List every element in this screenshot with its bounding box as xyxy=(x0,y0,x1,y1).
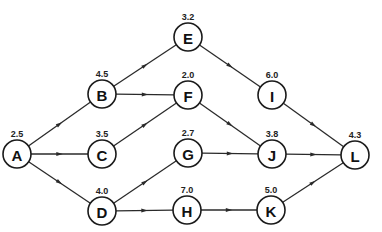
node-c: C3.5 xyxy=(88,129,116,168)
node-i: I6.0 xyxy=(258,70,286,109)
edge-a-c xyxy=(31,152,88,156)
arrow-icon xyxy=(141,209,147,213)
edge-g-j xyxy=(202,152,258,156)
node-j: J3.8 xyxy=(258,129,286,168)
arrow-icon xyxy=(227,152,233,156)
arrow-icon xyxy=(310,153,316,157)
node-f: F2.0 xyxy=(174,70,202,109)
node-label: I xyxy=(270,88,274,105)
edge-f-j xyxy=(199,103,260,146)
node-label: D xyxy=(97,204,108,221)
node-value: 3.2 xyxy=(182,12,195,22)
edge-k-l xyxy=(283,163,344,203)
node-k: K5.0 xyxy=(257,185,285,224)
nodes-layer: A2.5B4.5C3.5D4.0E3.2F2.0G2.7H7.0I6.0J3.8… xyxy=(3,12,369,225)
edge-c-f xyxy=(114,103,177,146)
node-value: 3.8 xyxy=(266,129,279,139)
node-value: 5.0 xyxy=(265,185,278,195)
node-value: 4.3 xyxy=(349,130,362,140)
node-b: B4.5 xyxy=(88,69,116,108)
node-a: A2.5 xyxy=(3,129,31,168)
node-value: 4.0 xyxy=(96,186,109,196)
node-label: L xyxy=(350,148,359,165)
arrow-icon xyxy=(142,93,148,97)
node-label: H xyxy=(182,203,193,220)
node-label: A xyxy=(12,147,23,164)
node-label: B xyxy=(97,87,108,104)
node-label: C xyxy=(97,147,108,164)
node-value: 2.0 xyxy=(182,70,195,80)
node-value: 2.5 xyxy=(11,129,24,139)
node-value: 4.5 xyxy=(96,69,109,79)
node-label: K xyxy=(266,203,277,220)
node-g: G2.7 xyxy=(174,128,202,167)
edge-e-i xyxy=(200,45,261,87)
edge-a-d xyxy=(29,162,91,203)
node-h: H7.0 xyxy=(173,185,201,224)
node-label: J xyxy=(268,147,276,164)
edge-a-b xyxy=(28,102,90,146)
edge-d-g xyxy=(114,161,177,203)
node-value: 6.0 xyxy=(266,70,279,80)
edge-j-l xyxy=(286,153,341,157)
node-value: 7.0 xyxy=(181,185,194,195)
node-label: E xyxy=(183,30,193,47)
edge-i-l xyxy=(283,103,343,147)
edge-b-f xyxy=(116,93,174,97)
arrow-icon xyxy=(309,181,315,186)
edge-b-e xyxy=(114,45,177,87)
edge-d-h xyxy=(116,209,173,213)
node-value: 3.5 xyxy=(96,129,109,139)
node-value: 2.7 xyxy=(182,128,195,138)
node-d: D4.0 xyxy=(88,186,116,225)
network-diagram: A2.5B4.5C3.5D4.0E3.2F2.0G2.7H7.0I6.0J3.8… xyxy=(0,0,382,232)
arrow-icon xyxy=(56,152,62,156)
node-label: F xyxy=(183,88,192,105)
node-e: E3.2 xyxy=(174,12,202,51)
edge-h-k xyxy=(201,208,257,212)
arrow-icon xyxy=(226,208,232,212)
node-l: L4.3 xyxy=(341,130,369,169)
node-label: G xyxy=(182,146,194,163)
